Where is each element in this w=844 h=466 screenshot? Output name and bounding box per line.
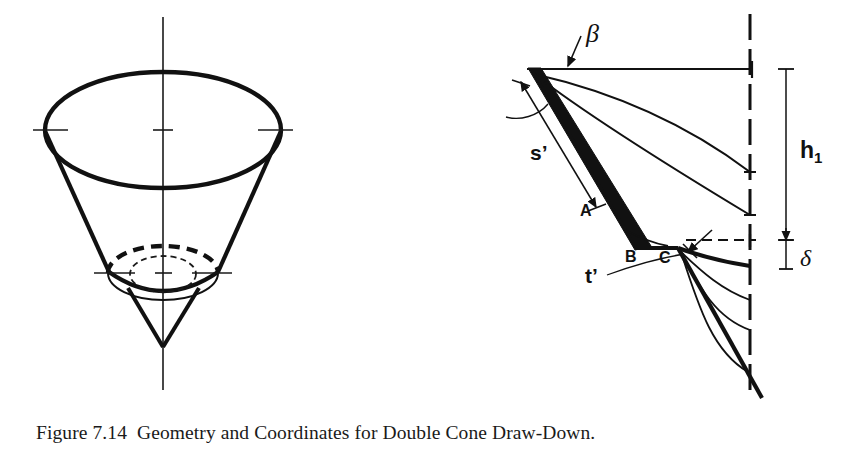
point-b-label: B bbox=[625, 248, 637, 265]
inner-cone-edge-right bbox=[163, 288, 199, 347]
h1-label: h1 bbox=[800, 137, 822, 166]
flow-channel-upper-boundary bbox=[533, 72, 636, 248]
figure-caption: Figure 7.14 Geometry and Coordinates for… bbox=[36, 422, 595, 444]
beta-label: β bbox=[585, 19, 599, 48]
t-prime-leader-line bbox=[607, 254, 684, 275]
draw-down-profile-2 bbox=[534, 74, 750, 215]
right-section-diagram: β s’ A B C t’ h1 δ bbox=[506, 14, 822, 398]
figure-root: β s’ A B C t’ h1 δ bbox=[0, 0, 844, 466]
s-prime-top-tick bbox=[512, 80, 530, 86]
cone-wall-left bbox=[46, 132, 110, 272]
point-a-label: A bbox=[580, 202, 592, 219]
t-prime-label: t’ bbox=[585, 264, 598, 287]
inner-cone-edge-left bbox=[128, 288, 163, 347]
beta-leader-line bbox=[568, 36, 581, 66]
cone-wall-right bbox=[218, 132, 281, 272]
delta-label: δ bbox=[800, 245, 812, 271]
s-prime-label: s’ bbox=[530, 141, 548, 164]
left-cone-diagram bbox=[33, 17, 293, 390]
figure-drawing: β s’ A B C t’ h1 δ bbox=[0, 0, 844, 466]
